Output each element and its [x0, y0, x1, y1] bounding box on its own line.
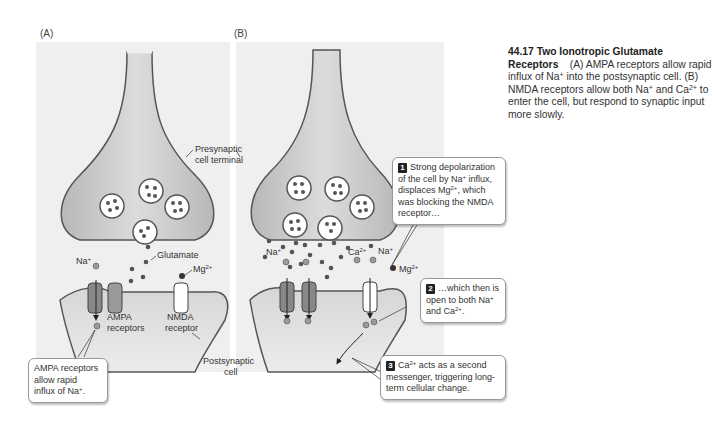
step-1-badge: 1	[398, 163, 407, 173]
panel-a-presynaptic-terminal	[61, 52, 214, 240]
callout-step-1: 1Strong depolarization of the cell by Na…	[392, 157, 506, 225]
label-mg-a: Mg2+	[193, 264, 212, 274]
panel-b-presynaptic-terminal	[251, 50, 399, 240]
panel-a-glutamate	[129, 245, 151, 284]
label-presynaptic: Presynaptic	[195, 144, 242, 154]
figure-caption: 44.17 Two Ionotropic Glutamate Receptors…	[508, 46, 712, 121]
label-nmda: NMDA	[167, 312, 194, 322]
label-na-b-right: Na+	[378, 246, 393, 256]
label-na-b-left: Na+	[266, 247, 281, 257]
step-3-badge: 3	[386, 361, 395, 371]
label-ca-b: Ca2+	[348, 247, 366, 257]
label-glutamate: Glutamate	[157, 250, 199, 260]
label-receptors: receptors	[107, 323, 145, 333]
label-ampa: AMPA	[107, 312, 132, 322]
callout-step-2: 2…which then is open to both Na+ and Ca2…	[420, 278, 506, 323]
label-na-a: Na+	[76, 256, 91, 266]
callout-ampa-line2: allow rapid	[34, 375, 102, 387]
label-postsynaptic: Postsynaptic	[203, 356, 254, 366]
callout-ampa-line1: AMPA receptors	[34, 363, 102, 375]
label-mg-b: Mg2+	[399, 264, 418, 274]
callout-ampa-line3: influx of Na+.	[34, 386, 102, 398]
callout-ampa: AMPA receptors allow rapid influx of Na+…	[28, 358, 108, 403]
label-cell-terminal: cell terminal	[195, 155, 243, 165]
label-receptor: receptor	[165, 323, 198, 333]
callout-step-3: 3Ca2+ acts as a second messenger, trigge…	[380, 355, 506, 400]
step-2-badge: 2	[426, 284, 435, 294]
panel-a-nmda-receptor	[174, 273, 188, 313]
label-cell: cell	[224, 367, 238, 377]
